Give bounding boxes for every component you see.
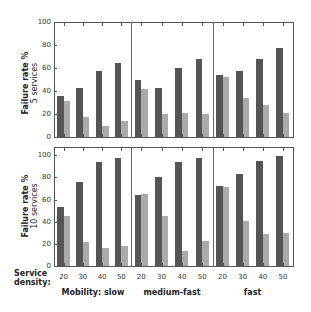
x-tick-label: 40 — [255, 273, 271, 281]
x-tick-mark — [223, 263, 224, 266]
x-tick-label: 30 — [75, 273, 91, 281]
bar-gocomo-30 — [162, 216, 169, 266]
y-tick-label: 60 — [27, 64, 51, 72]
x-tick-mark — [243, 148, 244, 151]
y-tick-label: 20 — [27, 110, 51, 118]
x-tick-mark — [263, 263, 264, 266]
y-tick-label: 80 — [27, 173, 51, 181]
x-tick-mark — [223, 148, 224, 151]
x-tick-mark — [83, 23, 84, 26]
x-tick-mark — [83, 263, 84, 266]
x-tick-label: 40 — [174, 273, 190, 281]
x-tick-mark — [283, 263, 284, 266]
x-tick-mark — [141, 23, 142, 26]
x-tick-mark — [64, 148, 65, 151]
x-axis-title: Service density: — [14, 269, 51, 287]
bar-gocomo-20 — [64, 101, 71, 137]
facet-divider — [213, 147, 214, 267]
bar-gocomo-40 — [263, 105, 270, 137]
y-tick-label: 20 — [27, 240, 51, 248]
x-tick-mark — [83, 134, 84, 137]
x-tick-mark — [121, 134, 122, 137]
x-tick-mark — [182, 23, 183, 26]
y-tick-label: 40 — [27, 87, 51, 95]
x-tick-mark — [223, 23, 224, 26]
x-tick-mark — [243, 134, 244, 137]
x-tick-label: 50 — [194, 273, 210, 281]
x-tick-mark — [64, 134, 65, 137]
bar-gocomo-20 — [223, 77, 230, 137]
y-tick-label: 100 — [27, 18, 51, 26]
x-tick-mark — [83, 148, 84, 151]
x-tick-mark — [243, 23, 244, 26]
x-tick-mark — [182, 134, 183, 137]
x-tick-mark — [162, 23, 163, 26]
bar-gocomo-20 — [141, 89, 148, 137]
x-tick-label: 50 — [275, 273, 291, 281]
bar-gocomo-30 — [243, 98, 250, 137]
group-label-slow: Mobility: slow — [54, 288, 132, 297]
y-tick-label: 40 — [27, 218, 51, 226]
bar-gocomo-20 — [141, 194, 148, 266]
bar-gocomo-20 — [64, 216, 71, 266]
x-tick-mark — [283, 23, 284, 26]
x-tick-mark — [263, 134, 264, 137]
y-tick-label: 60 — [27, 196, 51, 204]
x-tick-label: 20 — [133, 273, 149, 281]
y-tick-label: 0 — [27, 133, 51, 141]
x-tick-mark — [243, 263, 244, 266]
x-tick-mark — [223, 134, 224, 137]
x-tick-mark — [162, 134, 163, 137]
x-tick-mark — [182, 148, 183, 151]
x-tick-mark — [102, 23, 103, 26]
bar-gocomo-40 — [263, 234, 270, 266]
x-tick-mark — [141, 134, 142, 137]
y-tick-mark — [54, 137, 57, 138]
y-tick-mark — [54, 177, 57, 178]
x-tick-mark — [121, 263, 122, 266]
y-tick-mark — [54, 22, 57, 23]
x-tick-label: 20 — [56, 273, 72, 281]
facet-divider — [131, 147, 132, 267]
x-tick-mark — [202, 23, 203, 26]
x-tick-mark — [64, 263, 65, 266]
group-label-medium-fast: medium-fast — [131, 288, 213, 297]
y-tick-label: 80 — [27, 41, 51, 49]
x-tick-label: 30 — [235, 273, 251, 281]
x-tick-mark — [64, 23, 65, 26]
facet-divider — [213, 22, 214, 138]
group-label-fast: fast — [212, 288, 293, 297]
bar-gocomo-50 — [283, 233, 290, 266]
x-tick-mark — [102, 148, 103, 151]
y-tick-mark — [54, 91, 57, 92]
y-tick-label: 100 — [27, 151, 51, 159]
y-tick-mark — [54, 200, 57, 201]
x-tick-label: 30 — [154, 273, 170, 281]
x-tick-mark — [121, 23, 122, 26]
x-tick-mark — [141, 263, 142, 266]
x-tick-mark — [121, 148, 122, 151]
x-tick-label: 50 — [113, 273, 129, 281]
y-tick-mark — [54, 45, 57, 46]
facet-divider — [131, 22, 132, 138]
x-tick-mark — [141, 148, 142, 151]
bar-gocomo-30 — [243, 221, 250, 266]
y-tick-label: 0 — [27, 262, 51, 270]
x-tick-mark — [162, 148, 163, 151]
x-axis-title-line2: density: — [14, 278, 51, 287]
x-tick-mark — [102, 134, 103, 137]
x-tick-mark — [283, 134, 284, 137]
x-tick-mark — [162, 263, 163, 266]
x-tick-mark — [263, 148, 264, 151]
x-tick-mark — [102, 263, 103, 266]
y-tick-mark — [54, 68, 57, 69]
y-tick-mark — [54, 155, 57, 156]
x-tick-label: 40 — [94, 273, 110, 281]
bar-gocomo-20 — [223, 187, 230, 266]
x-tick-mark — [182, 263, 183, 266]
x-tick-mark — [263, 23, 264, 26]
x-tick-mark — [283, 148, 284, 151]
x-tick-label: 20 — [215, 273, 231, 281]
x-tick-mark — [202, 148, 203, 151]
y-tick-mark — [54, 266, 57, 267]
